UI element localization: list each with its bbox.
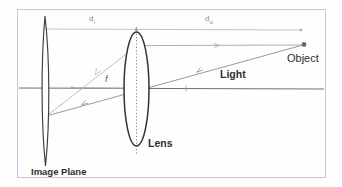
dimension-line [43, 29, 301, 30]
image-plane-body [42, 16, 49, 166]
figure-canvas: di do f Object Light Lens Image Plane [0, 0, 342, 187]
label-object-distance: do [205, 14, 213, 25]
optical-axis [19, 88, 324, 89]
lens-body [124, 32, 149, 146]
label-object-distance-sub: o [210, 19, 214, 25]
chief-ray [48, 45, 303, 116]
label-light: Light [220, 68, 246, 80]
object-point-marker [302, 42, 307, 47]
chief-ray-arrow-outer [197, 67, 203, 72]
label-lens: Lens [148, 137, 173, 149]
diagram-svg [0, 0, 342, 187]
focal-point-marker [71, 86, 73, 88]
label-image-distance: di [89, 14, 95, 25]
lens-top-vertex-dot [135, 29, 137, 31]
label-image-plane: Image Plane [31, 166, 86, 177]
label-image-distance-sub: i [94, 19, 96, 25]
label-focal-length: f [105, 74, 108, 84]
label-object: Object [287, 52, 319, 64]
figure-frame [18, 10, 326, 178]
dimension-end-dot [300, 29, 303, 32]
